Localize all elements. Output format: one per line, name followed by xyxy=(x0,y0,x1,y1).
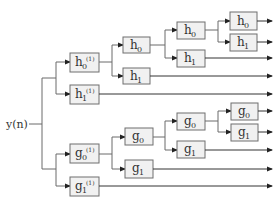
filter-g0-level1: g 0 (1) xyxy=(70,144,99,163)
svg-text:0: 0 xyxy=(82,62,87,71)
svg-text:0: 0 xyxy=(82,153,87,162)
svg-text:0: 0 xyxy=(191,121,196,130)
svg-text:(1): (1) xyxy=(86,55,95,62)
filter-g1-level2: g 1 xyxy=(125,160,153,178)
svg-text:1: 1 xyxy=(191,58,196,67)
svg-text:(1): (1) xyxy=(86,87,95,94)
svg-text:1: 1 xyxy=(139,168,144,177)
svg-text:0: 0 xyxy=(139,136,144,145)
svg-text:0: 0 xyxy=(244,21,249,30)
svg-text:1: 1 xyxy=(82,94,87,103)
filter-g1-level1: g 1 (1) xyxy=(70,177,99,196)
filter-h0-level3: h 0 xyxy=(177,22,205,39)
svg-text:1: 1 xyxy=(245,132,250,141)
input-label: y(n) xyxy=(5,118,28,131)
filter-g0-level4: g 0 xyxy=(231,103,258,120)
filter-h1-level3: h 1 xyxy=(177,50,205,67)
filter-h0-level2: h 0 xyxy=(123,37,150,54)
svg-text:1: 1 xyxy=(137,76,142,85)
svg-text:(1): (1) xyxy=(86,179,95,186)
svg-text:1: 1 xyxy=(82,186,87,195)
svg-text:1: 1 xyxy=(244,42,249,51)
filter-h1-level1: h 1 (1) xyxy=(70,85,99,104)
svg-text:0: 0 xyxy=(191,30,196,39)
svg-text:0: 0 xyxy=(137,45,142,54)
filter-g1-level3: g 1 xyxy=(177,141,205,158)
filter-h1-level4: h 1 xyxy=(230,34,257,51)
diagram-svg: y(n) h 0 (1) h 1 (1) h 0 h 1 h 0 xyxy=(0,0,280,203)
filter-h0-level4: h 0 xyxy=(230,12,257,30)
svg-text:0: 0 xyxy=(245,111,250,120)
filter-g0-level2: g 0 xyxy=(125,128,153,145)
svg-text:1: 1 xyxy=(191,149,196,158)
svg-text:(1): (1) xyxy=(86,146,95,153)
filter-g0-level3: g 0 xyxy=(177,113,205,130)
filter-bank-diagram: y(n) h 0 (1) h 1 (1) h 0 h 1 h 0 xyxy=(0,0,280,203)
filter-g1-level4: g 1 xyxy=(231,124,258,141)
filter-h1-level2: h 1 xyxy=(123,68,150,85)
filter-h0-level1: h 0 (1) xyxy=(70,53,99,72)
